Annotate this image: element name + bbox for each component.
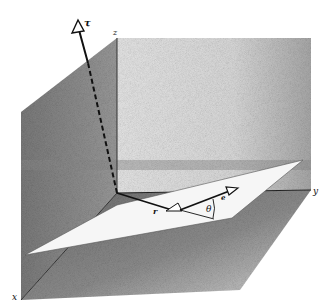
tau-vector bbox=[79, 30, 88, 63]
tau-arrowhead-icon bbox=[72, 20, 84, 33]
theta-label: θ bbox=[206, 204, 212, 214]
y-axis-label: y bbox=[312, 186, 319, 196]
e-label: e bbox=[221, 193, 226, 202]
stress-diagram: τ z x y r e θ bbox=[0, 0, 336, 308]
x-axis-label: x bbox=[12, 292, 17, 302]
tau-label: τ bbox=[84, 17, 91, 28]
z-axis-label: z bbox=[112, 28, 118, 37]
